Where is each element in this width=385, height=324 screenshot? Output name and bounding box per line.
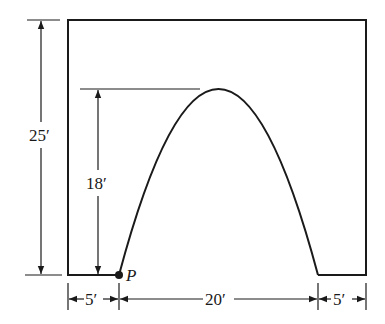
left-margin-label: 5′ [85, 290, 97, 309]
height-18-label: 18′ [86, 174, 107, 193]
arch-curve [119, 89, 318, 275]
point-p-marker [115, 271, 123, 279]
arch-diagram: P 25′ 18′ 5′ 20′ 5′ [0, 0, 385, 324]
point-p-label: P [125, 266, 136, 285]
outer-frame [68, 20, 366, 275]
right-margin-label: 5′ [333, 290, 345, 309]
arch-span-label: 20′ [205, 290, 226, 309]
height-25-label: 25′ [29, 126, 50, 145]
